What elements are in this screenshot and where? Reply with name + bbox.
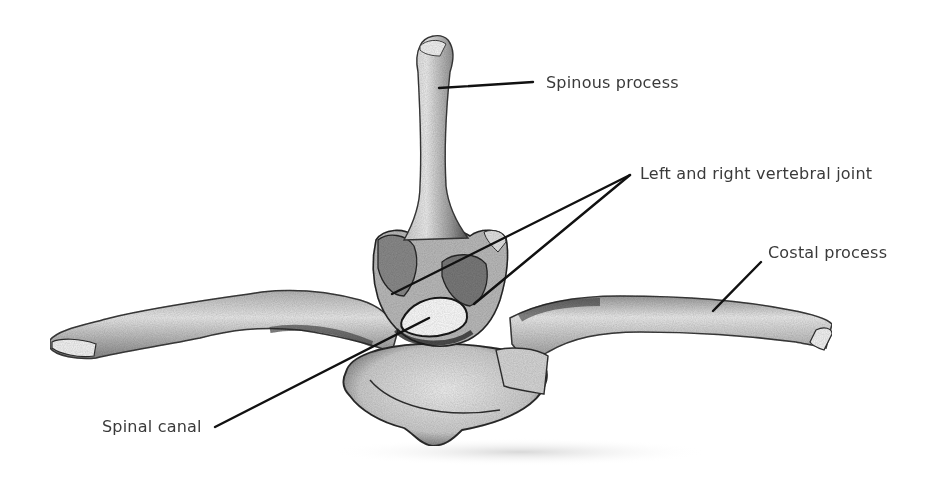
left-costal-process [50, 290, 398, 358]
vertebra-figure: Spinous process Left and right vertebral… [0, 0, 936, 484]
label-vertebral-joint: Left and right vertebral joint [640, 164, 872, 184]
leader-line-spinous [439, 82, 533, 88]
label-costal-process: Costal process [768, 243, 887, 263]
label-spinal-canal: Spinal canal [102, 417, 202, 437]
label-spinous-process: Spinous process [546, 73, 679, 93]
ground-shadow [330, 438, 710, 466]
bone-drawing [50, 36, 832, 446]
vertebra-illustration [0, 0, 936, 484]
spinous-process [404, 36, 468, 240]
